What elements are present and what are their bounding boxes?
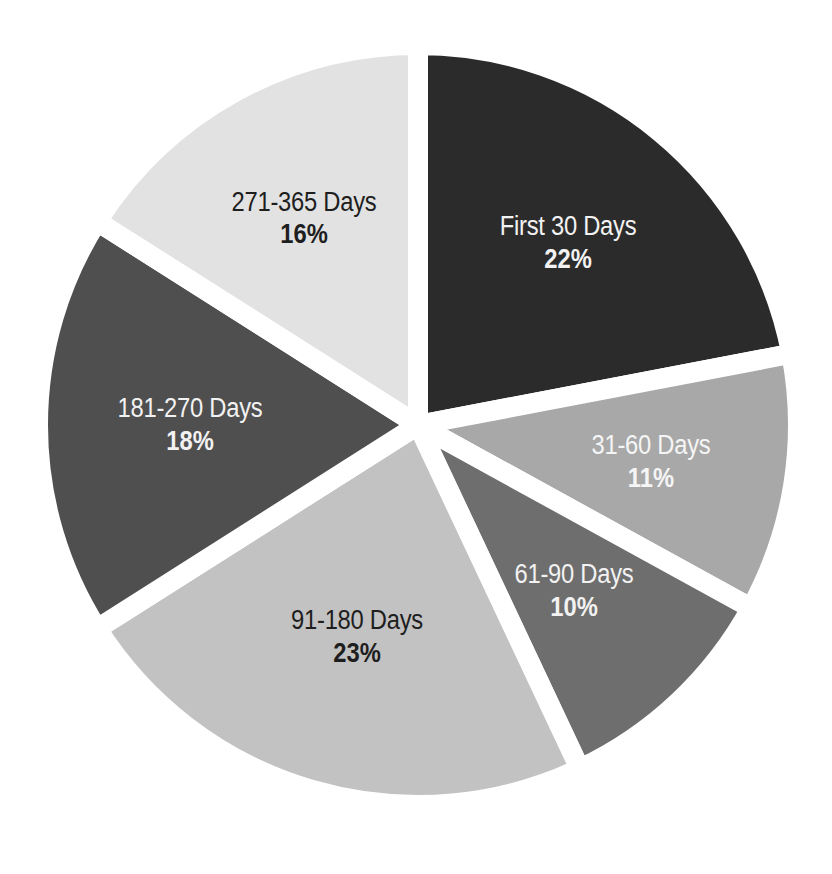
- pie-chart-graphic: [0, 0, 832, 874]
- pie-chart: First 30 Days 22% 31-60 Days 11% 61-90 D…: [0, 0, 832, 874]
